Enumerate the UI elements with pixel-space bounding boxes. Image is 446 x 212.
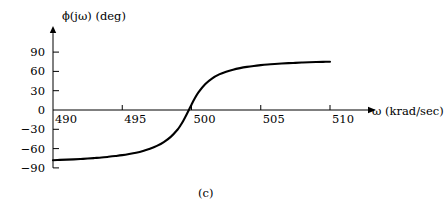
x-tick-label-490: 490 bbox=[55, 112, 77, 126]
y-tick-label--60: −60 bbox=[21, 142, 45, 156]
x-tick-label-510: 510 bbox=[332, 112, 354, 126]
x-tick-label-505: 505 bbox=[263, 112, 285, 126]
axes bbox=[50, 26, 376, 168]
phase-curve bbox=[53, 62, 330, 160]
x-axis-label: ω (krad/sec) bbox=[372, 104, 444, 118]
y-axis-label: ϕ(jω) (deg) bbox=[62, 9, 126, 23]
x-tick-label-500: 500 bbox=[194, 112, 216, 126]
y-tick-label-60: 60 bbox=[30, 64, 45, 78]
x-tick-label-495: 495 bbox=[124, 112, 146, 126]
y-axis-tick-labels: −90−60−300306090 bbox=[21, 45, 45, 175]
y-tick-label--30: −30 bbox=[21, 122, 45, 136]
y-tick-label-30: 30 bbox=[30, 84, 45, 98]
y-axis-arrow-icon bbox=[50, 26, 56, 33]
x-axis-tick-labels: 490495500505510 bbox=[55, 112, 354, 126]
phase-plot: 490495500505510 −90−60−300306090 ϕ(jω) (… bbox=[0, 0, 446, 212]
y-tick-label-90: 90 bbox=[30, 45, 45, 59]
phase-response-figure: 490495500505510 −90−60−300306090 ϕ(jω) (… bbox=[0, 0, 446, 212]
figure-caption: (c) bbox=[198, 186, 213, 200]
y-tick-label-0: 0 bbox=[38, 103, 45, 117]
x-axis-ticks bbox=[122, 105, 330, 110]
y-tick-label--90: −90 bbox=[21, 161, 45, 175]
